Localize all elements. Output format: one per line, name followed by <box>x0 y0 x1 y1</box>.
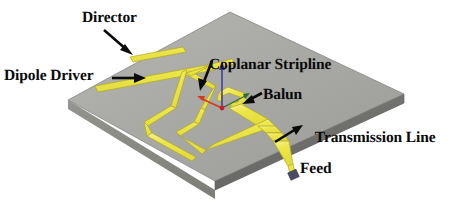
label-transmission-line-feed-line1: Transmission Line <box>315 129 436 146</box>
axes-origin-marker <box>220 106 225 111</box>
figure-canvas: Director Dipole Driver Coplanar Striplin… <box>0 0 456 212</box>
label-transmission-line-feed-line2: Feed <box>300 161 436 177</box>
director-arrow <box>104 30 133 55</box>
label-coplanar-stripline: Coplanar Stripline <box>209 57 331 73</box>
label-balun: Balun <box>263 87 302 103</box>
label-dipole-driver: Dipole Driver <box>4 68 94 84</box>
label-director: Director <box>82 10 137 26</box>
label-transmission-line-feed: Transmission Line Feed <box>300 114 436 209</box>
